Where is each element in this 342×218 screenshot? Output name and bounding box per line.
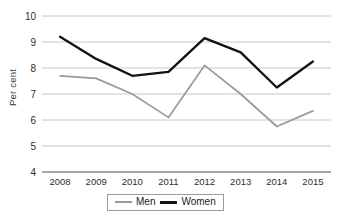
y-tick-label: 6 — [30, 115, 36, 126]
legend-item-women: Women — [160, 197, 215, 207]
x-tick-label: 2008 — [49, 176, 70, 187]
y-tick-label: 7 — [30, 89, 36, 100]
y-tick-label: 4 — [30, 167, 36, 178]
x-tick-label: 2011 — [158, 176, 178, 187]
legend-label-women: Women — [181, 197, 215, 207]
legend-line-swatch-women-icon — [160, 201, 177, 204]
y-tick-label: 9 — [30, 37, 36, 48]
x-tick-label: 2014 — [266, 176, 287, 187]
x-tick-label: 2010 — [122, 176, 143, 187]
legend-item-men: Men — [115, 197, 155, 207]
x-axis-tick-labels: 20082009201020112012201320142015 — [49, 176, 323, 187]
y-tick-label: 10 — [25, 11, 37, 22]
legend-line-swatch-men-icon — [115, 201, 132, 203]
x-tick-label: 2009 — [86, 176, 107, 187]
chart-legend: Men Women — [107, 194, 224, 211]
y-axis-tick-labels: 45678910 — [25, 11, 37, 178]
y-tick-label: 8 — [30, 63, 36, 74]
gridlines — [42, 16, 331, 172]
series-line-men — [60, 65, 313, 126]
chart-container: Per cent 45678910 2008200920102011201220… — [0, 0, 342, 218]
legend-label-men: Men — [136, 197, 155, 207]
data-series-lines — [60, 37, 313, 127]
y-tick-label: 5 — [30, 141, 36, 152]
x-tick-label: 2015 — [302, 176, 323, 187]
x-tick-label: 2013 — [230, 176, 251, 187]
line-chart-plot: 45678910 2008200920102011201220132014201… — [0, 0, 342, 218]
x-tick-label: 2012 — [194, 176, 215, 187]
